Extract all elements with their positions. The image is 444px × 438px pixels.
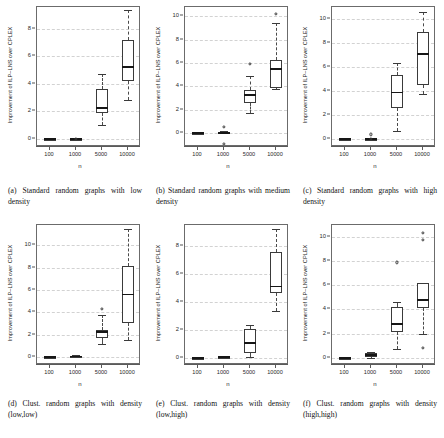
- plot-frame: [36, 224, 140, 364]
- whisker-cap-upper: [246, 325, 254, 326]
- x-axis: 1001000500010000: [331, 364, 435, 380]
- gridline: [185, 330, 287, 332]
- box-iqr: [417, 283, 429, 308]
- plot-area-a: Improvement of ILP–LNS over CPLEX0246810…: [0, 0, 148, 178]
- x-tick-label: 10000: [414, 369, 430, 375]
- y-tick-label: 10: [320, 233, 326, 239]
- x-tick-label: 1000: [364, 151, 376, 157]
- y-tick-label: 4: [28, 308, 31, 314]
- x-tick-label: 10000: [119, 369, 135, 375]
- y-tick-label: 8: [28, 25, 31, 31]
- y-tick-label: 10: [173, 12, 179, 18]
- x-tick-mark: [101, 146, 102, 150]
- x-tick-mark: [197, 364, 198, 368]
- whisker-cap-upper: [419, 12, 427, 13]
- median-line: [339, 138, 351, 140]
- median-line: [44, 356, 56, 358]
- outlier-point: [274, 12, 277, 15]
- box-iqr: [96, 89, 108, 113]
- whisker-upper: [423, 12, 425, 32]
- x-tick-label: 1000: [364, 369, 376, 375]
- x-axis: 1001000500010000: [184, 146, 288, 162]
- y-tick-label: 0: [176, 129, 179, 135]
- outlier-point: [421, 231, 424, 234]
- y-tick-mark: [180, 245, 183, 246]
- plot-area-c: Improvement of ILP–LNS over CPLEX0246810…: [295, 0, 443, 178]
- whisker-upper: [397, 63, 399, 76]
- median-line: [192, 357, 204, 359]
- median-line: [365, 354, 377, 356]
- x-axis-line: [36, 364, 140, 365]
- x-tick-mark: [75, 146, 76, 150]
- y-tick-label: 8: [176, 242, 179, 248]
- whisker-lower: [128, 323, 130, 340]
- y-tick-mark: [32, 27, 35, 28]
- median-line: [270, 68, 282, 70]
- y-tick-label: 4: [28, 80, 31, 86]
- whisker-upper: [102, 315, 104, 330]
- median-line: [122, 66, 134, 68]
- whisker-lower: [128, 81, 130, 100]
- y-tick-label: 4: [323, 87, 326, 93]
- y-tick-mark: [180, 329, 183, 330]
- y-tick-label: 4: [323, 305, 326, 311]
- x-tick-mark: [344, 146, 345, 150]
- median-line: [218, 132, 230, 134]
- median-line: [96, 331, 108, 333]
- x-tick-label: 5000: [95, 369, 107, 375]
- y-tick-mark: [327, 137, 330, 138]
- outlier-point: [222, 142, 225, 145]
- y-tick-mark: [327, 356, 330, 357]
- median-line: [96, 107, 108, 109]
- axis-area: 02468101001000500010000: [314, 224, 436, 372]
- x-tick-label: 100: [192, 369, 201, 375]
- x-tick-mark: [223, 364, 224, 368]
- gridline: [332, 237, 434, 239]
- y-tick-label: 4: [176, 298, 179, 304]
- x-axis-label: n: [19, 381, 141, 387]
- y-tick-label: 0: [323, 354, 326, 360]
- gridline: [37, 335, 139, 337]
- gridline: [332, 309, 434, 311]
- whisker-cap-upper: [393, 302, 401, 303]
- panel-caption-d: (d) Clust. random graphs with density (l…: [8, 399, 142, 420]
- x-axis-line: [36, 146, 140, 147]
- box-iqr: [417, 32, 429, 85]
- y-tick-label: 0: [176, 354, 179, 360]
- outlier-point: [222, 126, 225, 129]
- panel-caption-b: (b) Standard random graphs with medium d…: [156, 186, 290, 207]
- median-line: [417, 299, 429, 301]
- whisker-cap-lower: [419, 334, 427, 335]
- y-tick-label: 6: [323, 63, 326, 69]
- y-tick-mark: [32, 82, 35, 83]
- box-iqr: [122, 40, 134, 81]
- whisker-upper: [250, 76, 252, 89]
- x-tick-label: 5000: [390, 369, 402, 375]
- gridline: [185, 302, 287, 304]
- median-line: [44, 138, 56, 140]
- y-tick-label: 2: [28, 107, 31, 113]
- x-tick-mark: [197, 146, 198, 150]
- figure-panel-grid: Improvement of ILP–LNS over CPLEX0246810…: [0, 0, 444, 438]
- plot-frame: [184, 6, 288, 146]
- median-line: [391, 92, 403, 94]
- y-tick-mark: [180, 108, 183, 109]
- y-tick-labels: 0246810: [314, 224, 330, 364]
- axis-area: 024681001000500010000: [19, 6, 141, 154]
- whisker-cap-lower: [419, 94, 427, 95]
- chart-panel-f: Improvement of ILP–LNS over CPLEX0246810…: [295, 218, 444, 431]
- chart-panel-d: Improvement of ILP–LNS over CPLEX0246810…: [0, 218, 148, 431]
- x-tick-mark: [344, 364, 345, 368]
- y-tick-label: 2: [176, 326, 179, 332]
- y-tick-label: 2: [28, 331, 31, 337]
- y-tick-label: 8: [28, 264, 31, 270]
- y-tick-mark: [180, 132, 183, 133]
- median-line: [244, 94, 256, 96]
- x-tick-label: 10000: [267, 151, 283, 157]
- gridline: [37, 111, 139, 113]
- y-tick-label: 6: [28, 52, 31, 58]
- whisker-cap-lower: [246, 357, 254, 358]
- x-tick-label: 100: [192, 151, 201, 157]
- y-tick-mark: [180, 273, 183, 274]
- y-tick-labels: 0246810: [19, 224, 35, 364]
